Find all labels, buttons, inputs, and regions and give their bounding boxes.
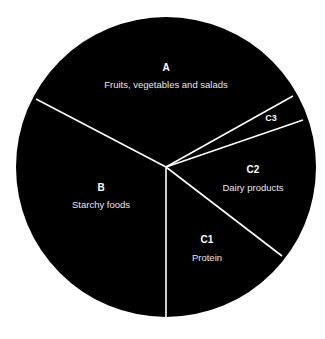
segment-c2-code: C2: [247, 164, 260, 175]
segment-b-code: B: [97, 182, 104, 193]
segment-a-name: Fruits, vegetables and salads: [104, 79, 228, 90]
segment-c2-name: Dairy products: [222, 182, 283, 193]
pie-chart: [0, 0, 325, 339]
segment-b-name: Starchy foods: [72, 199, 130, 210]
segment-a-code: A: [162, 62, 169, 73]
segment-c3-code: C3: [265, 113, 277, 123]
segment-c1-name: Protein: [192, 252, 222, 263]
segment-c1-code: C1: [201, 234, 214, 245]
